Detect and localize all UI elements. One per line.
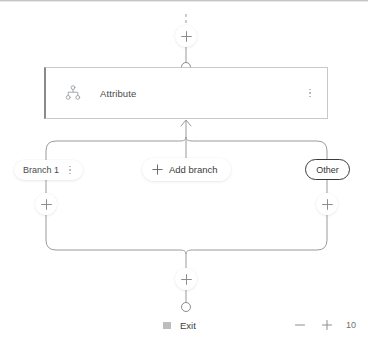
plus-icon (322, 199, 333, 210)
minus-icon (294, 319, 306, 331)
exit-node[interactable]: Exit (163, 320, 196, 331)
attribute-node-menu-button[interactable] (303, 84, 317, 102)
zoom-in-button[interactable] (319, 317, 335, 333)
add-branch-label: Add branch (169, 164, 218, 175)
branch-pill-branch-1[interactable]: Branch 1 (14, 160, 83, 180)
plus-icon (41, 199, 52, 210)
more-options-icon (69, 169, 71, 171)
more-options-icon (309, 89, 311, 91)
zoom-out-button[interactable] (292, 317, 308, 333)
branch-label: Other (316, 165, 339, 175)
zoom-level-label: 10 (346, 320, 356, 330)
add-step-after-merge-button[interactable] (175, 268, 197, 290)
zoom-control[interactable]: 10 (286, 312, 368, 338)
add-step-other-button[interactable] (316, 193, 338, 215)
attribute-node-card[interactable]: Attribute (44, 67, 328, 119)
plus-icon (152, 164, 163, 175)
hierarchy-icon (64, 84, 82, 102)
more-options-icon (69, 166, 71, 168)
add-step-branch-1-button[interactable] (35, 193, 57, 215)
more-options-icon (309, 92, 311, 94)
more-options-icon (309, 96, 311, 98)
exit-label: Exit (180, 320, 196, 331)
plus-icon (181, 274, 192, 285)
add-branch-button[interactable]: Add branch (142, 158, 231, 181)
branch-label: Branch 1 (23, 165, 59, 175)
stop-square-icon (163, 322, 171, 329)
plus-icon (321, 319, 333, 331)
attribute-node-label: Attribute (100, 88, 136, 99)
more-options-icon (69, 173, 71, 175)
workflow-canvas[interactable]: Attribute Branch 1 Add branch Other (0, 0, 368, 356)
plus-icon (181, 31, 192, 42)
branch-pill-other[interactable]: Other (305, 159, 350, 180)
add-step-top-button[interactable] (175, 25, 197, 47)
branch-menu-button[interactable] (63, 163, 77, 177)
